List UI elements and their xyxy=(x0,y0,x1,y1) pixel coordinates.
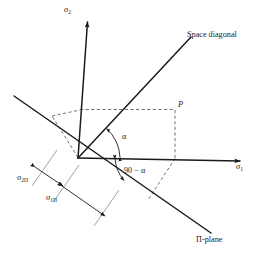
sigma-1-axis-line xyxy=(78,158,240,161)
point-p-label: P xyxy=(178,101,183,109)
extension-line-right xyxy=(94,190,119,226)
sigma-2-axis-line xyxy=(78,22,88,158)
dimension-label-sigma-2pi: σ2Π xyxy=(17,174,28,183)
sigma-2-axis-label: σ2 xyxy=(64,6,71,15)
angle-alpha-label: α xyxy=(122,133,126,141)
angle-ninety-minus-alpha-label: 90 − α xyxy=(124,167,145,175)
dimension-line-sigma-2pi xyxy=(35,167,63,186)
pi-plane-line xyxy=(14,96,211,233)
pi-plane-label: Π-plane xyxy=(196,236,222,244)
dashed-construction-lines xyxy=(52,110,175,201)
dimension-line-sigma-1pi xyxy=(62,186,105,216)
sigma-1-axis-label: σ1 xyxy=(236,163,243,172)
dashed-line-projection-to-pi xyxy=(148,159,175,201)
dimension-extension-lines xyxy=(32,150,119,226)
space-diagonal-label: Space diagonal xyxy=(187,31,237,39)
space-diagonal-line xyxy=(78,37,191,158)
dashed-line-upper-left-closure xyxy=(52,110,80,116)
angle-alpha-arc xyxy=(107,129,121,158)
stress-space-diagram: σ2 σ1 Space diagonal Π-plane P α 90 − α … xyxy=(0,0,259,259)
dimension-label-sigma-1pi: σ1Π xyxy=(46,194,57,203)
